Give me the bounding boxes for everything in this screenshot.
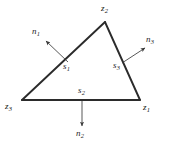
normal-label-n1: n1 (32, 27, 40, 36)
normal-n1-arrow (46, 41, 68, 62)
triangle-normals-figure: z1 z2 z3 s1 s2 s3 n1 n2 n3 (0, 0, 169, 148)
normal-n3-arrow (122, 48, 145, 63)
edge-label-s3: s3 (113, 61, 120, 70)
edge-label-s2: s2 (78, 86, 85, 95)
edge-s3-line (105, 22, 140, 100)
vertex-label-z3: z3 (5, 102, 12, 111)
normal-vectors (46, 41, 145, 126)
normal-label-n3: n3 (146, 35, 154, 44)
normal-label-n2: n2 (76, 129, 84, 138)
vertex-label-z1: z1 (143, 103, 150, 112)
figure-canvas (0, 0, 169, 148)
vertex-label-z2: z2 (101, 4, 108, 13)
edge-label-s1: s1 (63, 62, 70, 71)
